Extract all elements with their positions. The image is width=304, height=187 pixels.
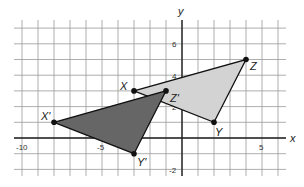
label-x-prime: X' [40,110,51,122]
vertex-point [131,151,137,157]
vertex-point [163,88,169,94]
vertex-point [131,88,137,94]
y-tick-6: 6 [172,40,177,49]
label-y-prime: Y' [137,156,147,168]
x-tick-5: 5 [259,143,264,152]
coordinate-plane: x y -10 -5 5 6 4 2 -2 X Y Z X' Y' Z' [0,0,304,187]
label-z-prime: Z' [169,92,180,104]
vertex-point [243,57,249,63]
triangle-xyz-prime [54,91,166,154]
x-tick-neg5: -5 [97,143,105,152]
y-tick-neg2: -2 [169,166,177,175]
y-axis-label: y [177,5,185,17]
label-z: Z [249,60,258,72]
vertex-point [51,120,57,126]
x-axis-label: x [289,132,296,144]
x-tick-neg10: -10 [16,143,28,152]
vertex-point [211,120,217,126]
label-x: X [119,80,128,92]
label-y: Y [215,126,223,138]
